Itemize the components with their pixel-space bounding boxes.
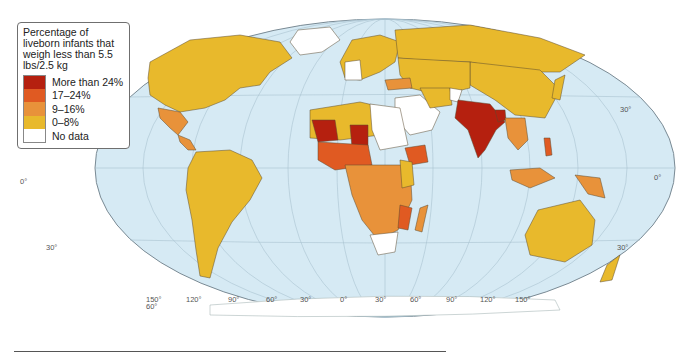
legend-label: 9–16% [52,103,85,115]
lat-label-30n-right: 30° [620,105,631,114]
europe-nodata [345,60,362,80]
svg-text:60°: 60° [266,295,277,304]
legend-item-more-than-24: More than 24% [23,75,124,89]
legend: Percentage of liveborn infants that weig… [17,22,130,149]
legend-swatch [23,102,46,116]
svg-text:150°: 150° [515,295,531,304]
legend-label: 17–24% [52,89,91,101]
legend-label: 0–8% [52,116,79,128]
turkey [385,78,412,90]
svg-text:120°: 120° [480,295,496,304]
legend-item-no-data: No data [23,129,124,143]
legend-label: No data [52,130,89,142]
legend-swatch [23,89,46,103]
svg-text:90°: 90° [446,295,457,304]
svg-text:120°: 120° [186,295,202,304]
lat-label-equator-left: 0° [20,177,27,186]
svg-text:150°: 150° [146,295,162,304]
svg-text:90°: 90° [228,295,239,304]
legend-swatch [23,116,46,130]
svg-text:0°: 0° [340,295,347,304]
legend-swatch [23,129,46,143]
legend-item-0-8: 0–8% [23,116,124,130]
svg-text:30°: 30° [375,295,386,304]
svg-text:60°: 60° [410,295,421,304]
legend-swatch [23,75,46,89]
legend-label: More than 24% [52,76,123,88]
bottom-rule [14,351,446,352]
legend-item-9-16: 9–16% [23,102,124,116]
east-africa [400,160,414,188]
svg-text:30°: 30° [300,295,311,304]
lat-label-30s-right: 30° [617,243,628,252]
legend-item-17-24: 17–24% [23,89,124,103]
legend-title: Percentage of liveborn infants that weig… [23,27,124,71]
lat-label-equator-right: 0° [654,173,661,182]
lat-label-30s-left: 30° [46,243,57,252]
